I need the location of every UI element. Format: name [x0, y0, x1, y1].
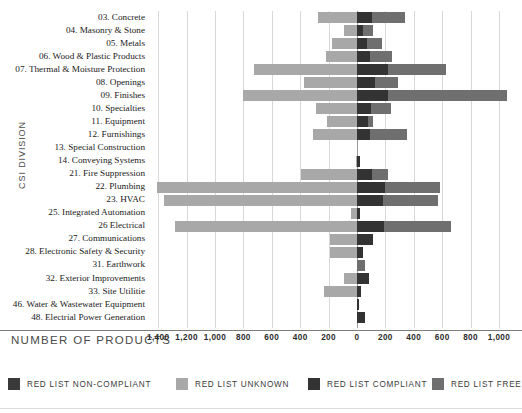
bar-segment-unknown — [157, 182, 357, 193]
category-label: 06. Wood & Plastic Products — [0, 51, 145, 61]
legend-swatch-icon — [176, 378, 188, 390]
bar-row — [155, 246, 485, 259]
bar-row — [155, 76, 485, 89]
bar-segment-unknown — [324, 286, 357, 297]
bar-segment-free — [375, 77, 398, 88]
bar-row — [155, 50, 485, 63]
category-label-column: 03. Concrete04. Masonry & Stone05. Metal… — [0, 11, 150, 328]
bar-segment-compliant — [357, 208, 360, 219]
bar-segment-compliant — [357, 182, 385, 193]
bar-segment-free — [370, 129, 406, 140]
category-label: 26 Electrical — [0, 220, 145, 230]
bar-segment-compliant — [357, 156, 360, 167]
legend-free[interactable]: RED LIST FREE — [432, 377, 522, 391]
category-label: 07. Thermal & Moisture Protection — [0, 64, 145, 74]
bar-segment-unknown — [301, 169, 357, 180]
bar-segment-compliant — [357, 12, 372, 23]
x-tick-label: 200 — [378, 333, 393, 342]
bar-segment-free — [367, 38, 382, 49]
legend-swatch-icon — [432, 378, 444, 390]
category-label: 09. Finishes — [0, 90, 145, 100]
bar-row — [155, 102, 485, 115]
bar-segment-unknown — [243, 90, 357, 101]
bar-segment-compliant — [357, 221, 384, 232]
x-tick-label: 600 — [435, 333, 450, 342]
bar-segment-compliant — [357, 169, 372, 180]
legend-compliant[interactable]: RED LIST COMPLIANT — [308, 377, 427, 391]
bar-segment-unknown — [326, 51, 357, 62]
bar-segment-unknown — [304, 77, 357, 88]
bar-row — [155, 207, 485, 220]
x-tick-label: 200 — [321, 333, 336, 342]
bar-segment-unknown — [313, 129, 357, 140]
legend-unknown[interactable]: RED LIST UNKNOWN — [176, 377, 289, 391]
bar-row — [155, 128, 485, 141]
bar-segment-unknown — [316, 103, 357, 114]
bar-segment-compliant — [357, 312, 365, 323]
footer-divider — [0, 408, 522, 409]
bar-segment-free — [372, 169, 388, 180]
category-label: 27. Communications — [0, 233, 145, 243]
x-tick-label: 1,400 — [147, 333, 170, 342]
csi-division-chart: CSI DIVISION 03. Concrete04. Masonry & S… — [0, 0, 522, 413]
bar-row — [155, 142, 485, 155]
category-label: 05. Metals — [0, 38, 145, 48]
bar-segment-unknown — [344, 273, 357, 284]
bar-row — [155, 11, 485, 24]
bar-segment-compliant — [357, 234, 373, 245]
bar-segment-free — [388, 90, 507, 101]
bar-segment-free — [384, 221, 451, 232]
bar-segment-unknown — [330, 247, 357, 258]
bar-row — [155, 220, 485, 233]
bar-segment-free — [357, 260, 365, 271]
x-axis-line — [0, 330, 522, 331]
bar-segment-unknown — [175, 221, 357, 232]
category-label: 22. Plumbing — [0, 181, 145, 191]
bar-segment-unknown — [327, 116, 357, 127]
bar-segment-compliant — [357, 129, 370, 140]
bar-segment-compliant — [357, 247, 363, 258]
category-label: 21. Fire Suppression — [0, 168, 145, 178]
bar-segment-unknown — [332, 38, 357, 49]
bar-segment-compliant — [357, 286, 361, 297]
bar-segment-free — [371, 103, 391, 114]
bar-segment-unknown — [344, 25, 357, 36]
bar-segment-free — [383, 195, 438, 206]
bar-row — [155, 194, 485, 207]
legend-label: RED LIST FREE — [451, 380, 522, 389]
bar-row — [155, 89, 485, 102]
bar-segment-unknown — [318, 12, 357, 23]
category-label: 48. Electrial Power Generation — [0, 312, 145, 322]
bar-segment-free — [368, 116, 374, 127]
bar-segment-compliant — [357, 38, 367, 49]
category-label: 13. Special Construction — [0, 142, 145, 152]
legend-non-compliant[interactable]: RED LIST NON-COMPLIANT — [8, 377, 151, 391]
bar-segment-free — [363, 25, 373, 36]
bar-segment-compliant — [357, 195, 383, 206]
bar-row — [155, 298, 485, 311]
bar-row — [155, 272, 485, 285]
category-label: 11. Equipment — [0, 116, 145, 126]
x-tick-label: 0 — [355, 333, 360, 342]
bar-segment-compliant — [357, 77, 375, 88]
bar-segment-unknown — [164, 195, 357, 206]
x-tick-label: 800 — [236, 333, 251, 342]
bar-row — [155, 115, 485, 128]
bar-row — [155, 233, 485, 246]
bar-row — [155, 63, 485, 76]
category-label: 25. Integrated Automation — [0, 207, 145, 217]
bar-segment-free — [370, 51, 392, 62]
bar-row — [155, 311, 485, 324]
legend-label: RED LIST NON-COMPLIANT — [27, 380, 151, 389]
bar-row — [155, 155, 485, 168]
legend-label: RED LIST UNKNOWN — [195, 380, 289, 389]
category-label: 28. Electronic Safety & Security — [0, 246, 145, 256]
bar-segment-unknown — [254, 64, 357, 75]
category-label: 14. Conveying Systems — [0, 155, 145, 165]
bar-segment-compliant — [357, 299, 359, 310]
bar-rows — [155, 11, 485, 328]
bar-segment-compliant — [357, 64, 388, 75]
bar-segment-compliant — [357, 90, 388, 101]
bar-row — [155, 24, 485, 37]
legend-swatch-icon — [8, 378, 20, 390]
